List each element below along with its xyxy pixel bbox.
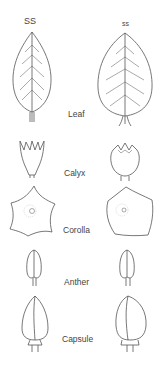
capsule-ss-icon xyxy=(22,296,48,352)
comparison-drawings xyxy=(0,0,162,368)
capsule-ss-recessive-icon xyxy=(116,296,146,352)
corolla-ss-recessive-icon xyxy=(107,187,153,236)
leaf-ss-recessive-icon xyxy=(98,33,152,126)
calyx-ss-recessive-icon xyxy=(111,143,140,181)
corolla-ss-icon xyxy=(10,186,55,236)
anther-ss-icon xyxy=(27,250,41,286)
leaf-ss-icon xyxy=(13,32,51,122)
anther-ss-recessive-icon xyxy=(120,250,134,286)
calyx-ss-icon xyxy=(20,141,44,178)
